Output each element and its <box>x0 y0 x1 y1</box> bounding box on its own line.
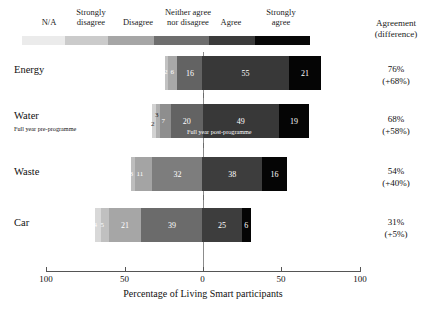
segment-disagree-value: 11 <box>137 170 144 178</box>
row-sublabel-water: Full year pre-programme <box>14 125 76 132</box>
legend-swatch-strongly-disagree <box>65 36 108 45</box>
segment-neither: 39 <box>141 208 202 242</box>
x-tick-2 <box>203 267 204 272</box>
agreement-value-energy: 76% (+68%) <box>355 64 437 87</box>
segment-strongly-agree: 21 <box>289 56 322 90</box>
row-tick-water <box>203 143 204 148</box>
segment-strongly-agree: 19 <box>279 104 309 138</box>
bar-row-energy: Energy 16 55 21 2 6 76% (+68%) <box>0 52 437 102</box>
segment-strongly-disagree-value: 3 <box>130 170 134 178</box>
x-tick-0 <box>46 267 47 272</box>
legend-gradient-bar <box>22 36 310 45</box>
agreement-pct-water: 68% <box>355 114 437 126</box>
legend-swatch-strongly-agree <box>255 36 310 45</box>
x-tick-label-4: 100 <box>353 274 367 284</box>
segment-na-value: 4 <box>94 221 98 229</box>
stacked-bar-car: 21 39 25 6 <box>95 208 251 242</box>
segment-agree: 38 <box>202 157 262 191</box>
segment-strongly-disagree-value: 6 <box>171 68 175 76</box>
legend-swatch-disagree <box>108 36 154 45</box>
row-label-car: Car <box>14 217 29 228</box>
x-axis: 100 50 0 50 100 Percentage of Living Sma… <box>0 268 437 313</box>
plot-area: Energy 16 55 21 2 6 76% (+68%) Water Ful… <box>0 52 437 267</box>
x-tick-label-0: 100 <box>39 274 53 284</box>
agreement-diff-waste: (+40%) <box>355 178 437 190</box>
row-tick-energy <box>203 93 204 98</box>
x-tick-1 <box>125 267 126 272</box>
x-tick-label-3: 50 <box>277 274 286 284</box>
segment-strongly-agree: 16 <box>262 157 287 191</box>
row-tick-waste <box>203 195 204 200</box>
row-label-water: Water <box>14 110 39 121</box>
segment-disagree: 21 <box>109 208 142 242</box>
legend-swatch-neither <box>154 36 209 45</box>
agreement-column-header: Agreement (difference) <box>355 18 437 40</box>
x-tick-label-1: 50 <box>120 274 129 284</box>
legend-label-strongly-agree-line2: agree <box>250 18 312 28</box>
segment-strongly-agree: 6 <box>242 208 251 242</box>
segment-strongly-disagree-value: 5 <box>101 221 105 229</box>
x-tick-label-2: 0 <box>200 274 205 284</box>
chart-canvas: N/A Strongly disagree Disagree Neither a… <box>0 0 437 313</box>
segment-agree: 55 <box>202 56 288 90</box>
x-axis-title: Percentage of Living Smart participants <box>0 288 406 299</box>
agreement-pct-energy: 76% <box>355 64 437 76</box>
segment-neither: 32 <box>152 157 202 191</box>
x-tick-4 <box>360 267 361 272</box>
agreement-diff-water: (+58%) <box>355 126 437 138</box>
x-tick-3 <box>281 267 282 272</box>
legend-swatch-na <box>22 36 65 45</box>
agreement-pct-waste: 54% <box>355 166 437 178</box>
legend-swatch-agree <box>209 36 255 45</box>
bar-row-water: Water Full year pre-programme 20 49 19 2… <box>0 102 437 152</box>
agreement-header-line2: (difference) <box>355 29 437 40</box>
segment-disagree-value: 7 <box>162 117 166 125</box>
agreement-value-car: 31% (+5%) <box>355 217 437 240</box>
stacked-bar-waste: 32 38 16 <box>131 157 287 191</box>
agreement-diff-energy: (+68%) <box>355 76 437 88</box>
segment-strongly-disagree-value: 3 <box>155 111 159 119</box>
segment-neither: 16 <box>177 56 202 90</box>
agreement-value-water: 68% (+58%) <box>355 114 437 137</box>
bar-row-car: Car 21 39 25 6 4 5 31% (+5%) <box>0 204 437 254</box>
agreement-header-line1: Agreement <box>355 18 437 29</box>
legend-label-agree: Agree <box>208 18 254 28</box>
agreement-diff-car: (+5%) <box>355 229 437 241</box>
row-label-energy: Energy <box>14 64 44 75</box>
agreement-value-waste: 54% (+40%) <box>355 166 437 189</box>
annotation-post-programme: Full year post-programme <box>187 128 252 135</box>
segment-na-value: 2 <box>164 68 168 76</box>
segment-na-value: 2 <box>151 120 155 128</box>
stacked-bar-energy: 16 55 21 <box>165 56 322 90</box>
agreement-pct-car: 31% <box>355 217 437 229</box>
bar-row-waste: Waste 32 38 16 3 11 54% (+40%) <box>0 154 437 204</box>
legend-labels: N/A Strongly disagree Disagree Neither a… <box>0 4 330 36</box>
row-label-waste: Waste <box>14 166 39 177</box>
segment-agree: 25 <box>202 208 241 242</box>
